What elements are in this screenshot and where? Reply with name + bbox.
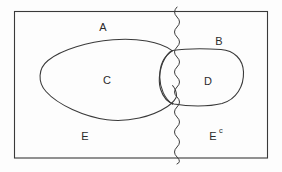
wavy-divider-line <box>175 7 180 164</box>
set-diagram-figure: A B C D E E c <box>0 0 282 172</box>
label-e-complement-base: E <box>209 130 217 142</box>
label-b: B <box>215 35 223 47</box>
set-d-shaded-region <box>159 49 243 106</box>
label-e-complement-superscript: c <box>219 126 223 135</box>
universal-set-rectangle <box>15 12 268 159</box>
set-c-arc-inside-d <box>160 51 173 104</box>
label-e: E <box>81 130 89 142</box>
label-a: A <box>99 21 107 33</box>
venn-diagram-canvas: A B C D E E c <box>0 0 282 172</box>
label-d: D <box>204 75 212 87</box>
label-c: C <box>103 74 111 86</box>
